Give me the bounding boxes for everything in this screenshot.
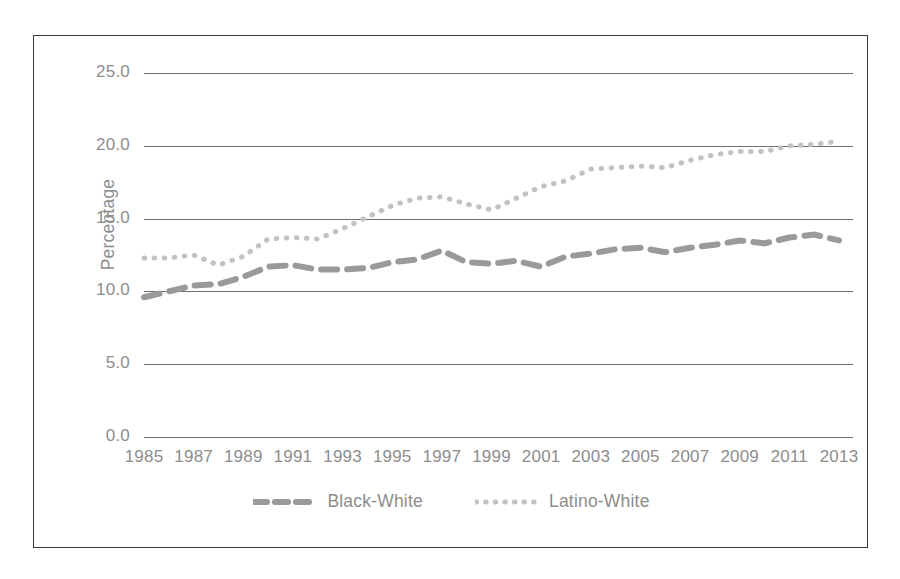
- chart-legend: Black-WhiteLatino-White: [34, 491, 869, 512]
- x-axis-tick-labels: 1985198719891991199319951997199920012003…: [34, 447, 869, 477]
- chart-frame: Percentage 0.05.010.015.020.025.0 198519…: [33, 35, 868, 548]
- dashed-line-swatch: [253, 496, 315, 508]
- legend-item-latino-white[interactable]: Latino-White: [475, 491, 650, 512]
- chart-plot-area: Percentage 0.05.010.015.020.025.0 198519…: [34, 36, 867, 547]
- series-line-black-white: [144, 235, 839, 298]
- dotted-line-swatch: [475, 496, 537, 508]
- x-axis-tick-label: 2013: [809, 447, 869, 467]
- legend-item-black-white[interactable]: Black-White: [253, 491, 423, 512]
- legend-label: Black-White: [327, 491, 423, 512]
- legend-label: Latino-White: [549, 491, 650, 512]
- series-line-latino-white: [144, 141, 839, 265]
